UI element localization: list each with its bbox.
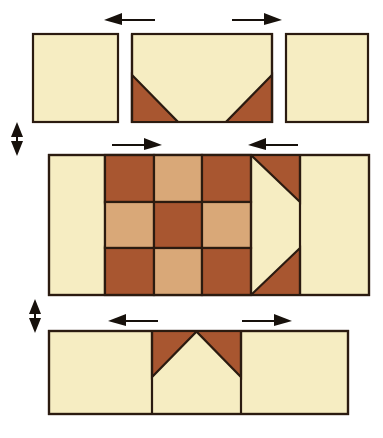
- press-arrow-top-left: [104, 13, 155, 25]
- top-row: [33, 13, 368, 122]
- nine-patch-cell-r2c3: [202, 202, 251, 248]
- nine-patch-cell-r1c1: [105, 155, 154, 202]
- middle-row: [49, 138, 369, 295]
- quilt-block-assembly-diagram: [0, 0, 383, 438]
- arrow-left-icon: [108, 314, 126, 326]
- bottom-row: [49, 314, 348, 414]
- press-arrow-bottom-right: [242, 314, 292, 326]
- join-arrow-upper: [11, 122, 23, 156]
- nine-patch-cell-r3c3: [202, 248, 251, 295]
- arrow-left-icon: [248, 138, 266, 150]
- nine-patch-cell-r1c3: [202, 155, 251, 202]
- arrow-right-icon: [274, 314, 292, 326]
- arrow-up-down-icon-down: [11, 141, 23, 156]
- nine-patch-cell-r3c1: [105, 248, 154, 295]
- nine-patch-cell-r3c2: [154, 248, 202, 295]
- arrow-up-down-icon-down: [29, 318, 41, 333]
- corner-square-top-right: [286, 34, 368, 122]
- bottom-row-background: [49, 331, 348, 414]
- press-arrow-middle-right: [248, 138, 298, 150]
- quilt-diagram-canvas: [0, 0, 383, 438]
- press-arrow-middle-left: [112, 138, 162, 150]
- nine-patch-cell-r1c2: [154, 155, 202, 202]
- arrow-right-icon: [144, 138, 162, 150]
- nine-patch-cell-r2c1: [105, 202, 154, 248]
- press-arrow-bottom-left: [108, 314, 158, 326]
- arrow-left-icon: [104, 13, 122, 25]
- arrow-up-down-icon-up: [11, 122, 23, 137]
- nine-patch-cell-r2c2: [154, 202, 202, 248]
- join-arrow-lower: [29, 299, 41, 333]
- arrow-right-icon: [264, 13, 282, 25]
- press-arrow-top-right: [232, 13, 282, 25]
- corner-square-top-left: [33, 34, 118, 122]
- arrow-up-down-icon-up: [29, 299, 41, 314]
- nine-patch-center: [105, 155, 251, 295]
- flying-geese-top: [132, 34, 272, 122]
